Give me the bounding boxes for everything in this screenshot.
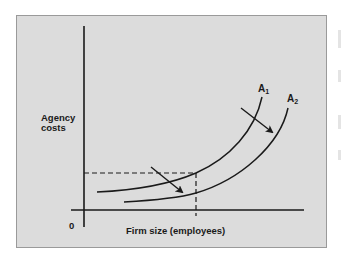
page-edge-mark [338,150,341,160]
page-edge-mark [338,70,341,82]
curve-a1-label-sub: 1 [265,88,269,95]
curve-a1 [97,97,262,192]
y-axis-label-line2: costs [41,122,66,133]
curve-a1-label: A1 [258,83,269,95]
curve-a2 [124,108,288,202]
shift-arrow-upper [241,108,272,132]
page-edge-mark [338,115,341,129]
agency-cost-chart: Agency costs 0 Firm size (employees) A1 … [0,0,344,257]
page-edge-mark [338,30,341,48]
curve-a1-label-main: A [258,83,265,94]
curve-a2-label-sub: 2 [294,98,298,105]
x-axis-label: Firm size (employees) [126,225,225,236]
origin-label: 0 [69,220,74,231]
curve-a2-label: A2 [287,93,298,105]
curve-a2-label-main: A [287,93,294,104]
